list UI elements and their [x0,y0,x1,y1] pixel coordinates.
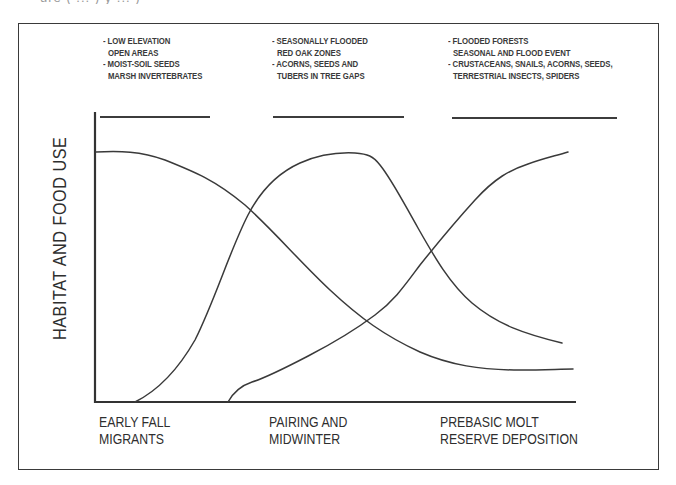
phase-label-line: MIDWINTER [269,430,347,447]
y-axis-label: HABITAT AND FOOD USE [50,137,71,340]
habitat-text: - LOW ELEVATION [103,35,202,47]
habitat-text: SEASONAL AND FLOOD EVENT [448,47,612,59]
phase-label-line: MIGRANTS [99,430,170,447]
phase-label-line: RESERVE DEPOSITION [440,430,578,447]
habitat-text: - SEASONALLY FLOODED [272,35,368,47]
habitat-text: OPEN AREAS [103,47,202,59]
habitat-column-early-fall: - LOW ELEVATION OPEN AREAS - MOIST-SOIL … [103,35,202,81]
habitat-column-prebasic: - FLOODED FORESTS SEASONAL AND FLOOD EVE… [448,35,612,81]
period-rule-prebasic [452,117,617,119]
habitat-text: - FLOODED FORESTS [448,35,612,47]
phase-label-line: EARLY FALL [99,413,170,430]
phase-label-line: PREBASIC MOLT [440,413,578,430]
habitat-column-midwinter: - SEASONALLY FLOODED RED OAK ZONES - ACO… [272,35,368,81]
period-rule-early-fall [100,116,210,118]
habitat-text: TERRESTRIAL INSECTS, SPIDERS [448,70,612,82]
habitat-text: RED OAK ZONES [272,47,368,59]
caption-fragment: ure ( ... ) y ... ) [40,0,300,4]
habitat-text: - ACORNS, SEEDS AND [272,58,368,70]
phase-label-midwinter: PAIRING AND MIDWINTER [269,413,347,447]
period-rule-midwinter [273,116,404,118]
phase-label-prebasic: PREBASIC MOLT RESERVE DEPOSITION [440,413,578,447]
habitat-text: TUBERS IN TREE GAPS [272,70,368,82]
figure-frame [18,23,659,470]
habitat-text: - MOIST-SOIL SEEDS [103,58,202,70]
habitat-text: MARSH INVERTEBRATES [103,70,202,82]
phase-label-early-fall: EARLY FALL MIGRANTS [99,413,170,447]
habitat-text: - CRUSTACEANS, SNAILS, ACORNS, SEEDS, [448,58,612,70]
phase-label-line: PAIRING AND [269,413,347,430]
